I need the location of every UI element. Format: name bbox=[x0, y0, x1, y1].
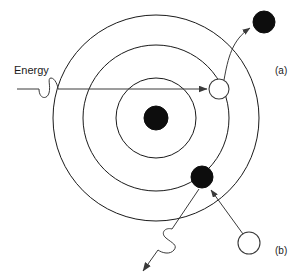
panel-label-a: (a) bbox=[275, 65, 287, 76]
emitted-photon-line-lower bbox=[143, 250, 158, 271]
panel-label-b: (b) bbox=[275, 245, 287, 256]
diagram-canvas: Energy (a) (b) bbox=[0, 0, 302, 277]
emitted-photon-line-upper bbox=[172, 189, 199, 229]
nucleus bbox=[144, 106, 168, 130]
electron-relaxed-filled bbox=[191, 166, 213, 188]
electron-absorbing-hollow bbox=[209, 79, 229, 99]
atom-energy-diagram: Energy (a) (b) bbox=[0, 0, 302, 277]
incoming-photon-squiggle-icon bbox=[39, 78, 58, 98]
energy-label: Energy bbox=[14, 64, 49, 76]
emitted-photon-squiggle-icon bbox=[158, 229, 175, 253]
electron-excited-filled bbox=[253, 11, 275, 33]
electron-origin-hollow bbox=[238, 232, 260, 254]
emission-path-arrow bbox=[211, 190, 243, 234]
